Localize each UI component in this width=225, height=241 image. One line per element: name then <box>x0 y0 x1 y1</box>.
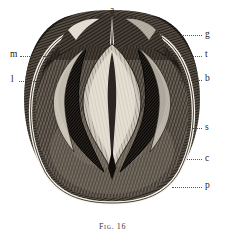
callout-label-t: t <box>205 50 208 60</box>
leader-line-g <box>152 35 202 36</box>
callout-label-b: b <box>205 74 210 84</box>
callout-label-l: l <box>11 75 14 85</box>
figure-caption: Fig. 16 <box>0 222 225 231</box>
callout-label-a: a <box>110 6 114 16</box>
figure-plate: a g t b s c p m l Fig. 16 <box>0 0 225 241</box>
callout-label-p: p <box>205 181 210 191</box>
engraving-figure <box>0 0 225 218</box>
leader-line-t <box>156 56 202 57</box>
caption-prefix: Fig. <box>99 222 114 231</box>
leader-line-p <box>172 187 202 188</box>
caption-number: 16 <box>117 222 126 231</box>
leader-line-l <box>19 81 36 82</box>
leader-line-c <box>187 159 202 160</box>
callout-label-s: s <box>205 123 209 133</box>
callout-label-c: c <box>205 154 209 164</box>
leader-line-m <box>20 56 48 57</box>
leader-line-s <box>192 128 202 129</box>
leader-line-b <box>180 80 202 81</box>
callout-label-g: g <box>205 30 210 40</box>
hoof-sole-engraving <box>0 0 225 218</box>
callout-label-m: m <box>10 50 17 60</box>
